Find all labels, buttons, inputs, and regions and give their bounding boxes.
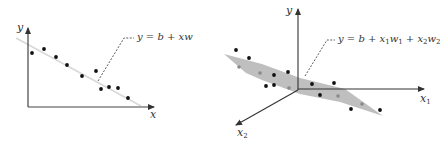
- data-point: [332, 81, 336, 85]
- data-point: [318, 93, 322, 97]
- x2-label-sub: 2: [243, 132, 247, 140]
- data-point: [54, 55, 58, 59]
- regression-line: [16, 38, 141, 106]
- data-point: [258, 71, 262, 75]
- right-y-axis-label: y: [286, 5, 292, 16]
- data-point: [272, 73, 276, 77]
- data-point: [94, 69, 98, 73]
- data-point: [349, 107, 353, 111]
- data-point: [65, 63, 69, 67]
- data-point: [247, 56, 251, 60]
- data-point: [360, 102, 364, 106]
- x2-axis: [236, 90, 298, 125]
- equation-callout: [305, 40, 335, 76]
- data-point: [126, 96, 130, 100]
- regression-plane: [224, 54, 383, 116]
- data-point: [272, 83, 276, 87]
- x1-label-sub: 1: [426, 98, 430, 106]
- data-point: [310, 82, 314, 86]
- regression-diagram: [0, 0, 443, 148]
- left-equation: y = b + xw: [137, 32, 193, 42]
- right-equation: y = b + x1w1 + x2w2: [338, 34, 441, 46]
- eq-part: w: [390, 33, 399, 44]
- data-point: [107, 85, 111, 89]
- data-point: [30, 51, 34, 55]
- data-point: [286, 70, 290, 74]
- data-point: [378, 108, 382, 112]
- data-point: [336, 94, 340, 98]
- data-point: [116, 86, 120, 90]
- equation-callout: [98, 38, 134, 81]
- left-x-axis-label: x: [150, 109, 156, 120]
- eq-part: + x: [403, 33, 423, 44]
- x2-axis-label: x2: [237, 127, 248, 140]
- data-point: [237, 65, 241, 69]
- data-point: [234, 48, 238, 52]
- right-plot: [224, 9, 424, 125]
- x1-axis-label: x1: [420, 93, 431, 106]
- eq-sub: 2: [436, 38, 440, 46]
- eq-part: w: [428, 33, 437, 44]
- data-point: [80, 74, 84, 78]
- eq-part: y = b + x: [338, 33, 385, 44]
- data-point: [42, 47, 46, 51]
- data-point: [99, 87, 103, 91]
- data-point: [264, 84, 268, 88]
- left-plot: [16, 28, 154, 107]
- data-point: [287, 86, 291, 90]
- left-y-axis-label: y: [17, 22, 23, 33]
